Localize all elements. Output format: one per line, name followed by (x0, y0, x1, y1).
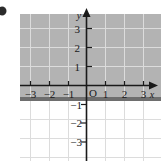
y-tick-label-2: 2 (75, 42, 81, 54)
x-axis-label: x (149, 89, 155, 100)
x-tick-label-2: 2 (122, 88, 128, 100)
bullet-marker-icon (0, 7, 7, 16)
y-axis-arrowhead (83, 8, 91, 17)
x-tick-label--3: −3 (25, 88, 37, 100)
y-tick-label--3: −3 (70, 136, 82, 148)
y-axis-label: y (76, 10, 82, 21)
x-tick-label--2: −2 (44, 88, 56, 100)
origin-label: O (89, 87, 97, 99)
y-tick-label--1: −1 (70, 99, 82, 111)
x-tick-label-3: 3 (141, 88, 147, 100)
x-tick-label-1: 1 (103, 88, 109, 100)
y-tick-label-1: 1 (75, 61, 81, 73)
y-tick-label-3: 3 (75, 23, 81, 35)
y-tick-label--2: −2 (70, 117, 82, 129)
coordinate-plane-svg: −3 −2 −1 1 2 3 3 2 1 −1 −2 −3 O x y (0, 0, 161, 161)
graph-figure: −3 −2 −1 1 2 3 3 2 1 −1 −2 −3 O x y (0, 0, 161, 161)
